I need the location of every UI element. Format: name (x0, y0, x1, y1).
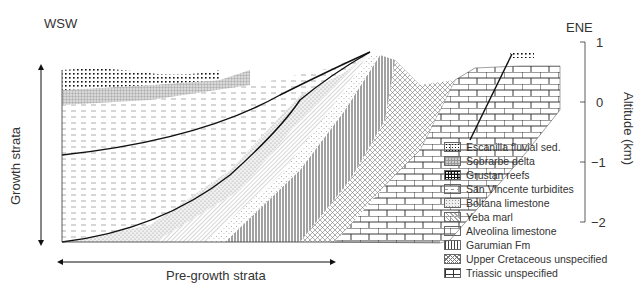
legend-item: Yeba marl (444, 211, 513, 223)
legend-item: Grustan reefs (444, 169, 530, 181)
vertical-lines-swatch-icon (444, 240, 461, 250)
axis-tick-0: 0 (596, 95, 603, 110)
diagonal-lines-swatch-icon (444, 212, 461, 222)
legend-label: Alveolina limestone (466, 225, 556, 237)
bold-grid-swatch-icon (444, 170, 461, 180)
legend-item: Garumian Fm (444, 239, 530, 251)
legend-label: Yeba marl (466, 211, 513, 223)
sparse-stipple-swatch-icon (444, 226, 461, 236)
legend-item: Triassic unspecified (444, 267, 558, 279)
legend: Escanilla fluvial sed. Sobrarbe delta Gr… (444, 141, 634, 281)
direction-wsw-label: WSW (44, 16, 77, 31)
legend-item: Sobrarbe delta (444, 155, 535, 167)
growth-strata-label: Growth strata (8, 127, 23, 205)
legend-item: Boltana limestone (444, 197, 549, 209)
crosshatch-swatch-icon (444, 254, 461, 264)
legend-label: Grustan reefs (466, 169, 530, 181)
legend-item: Upper Cretaceous unspecified (444, 253, 607, 265)
legend-label: Escanilla fluvial sed. (466, 141, 561, 153)
legend-item: Escanilla fluvial sed. (444, 141, 561, 153)
fine-grid-swatch-icon (444, 156, 461, 166)
legend-label: Triassic unspecified (466, 267, 558, 279)
legend-item: Alveolina limestone (444, 225, 556, 237)
legend-label: Garumian Fm (466, 239, 530, 251)
legend-label: Upper Cretaceous unspecified (466, 253, 607, 265)
legend-label: San Vincente turbidites (466, 183, 574, 195)
stipple-swatch-icon (444, 198, 461, 208)
legend-item: San Vincente turbidites (444, 183, 574, 195)
direction-ene-label: ENE (566, 20, 593, 35)
axis-tick-1: 1 (596, 35, 603, 50)
legend-label: Boltana limestone (466, 197, 549, 209)
bricks-swatch-icon (444, 268, 461, 278)
pre-growth-strata-label: Pre-growth strata (166, 268, 266, 283)
legend-label: Sobrarbe delta (466, 155, 535, 167)
dashes-swatch-icon (444, 184, 461, 194)
dots-swatch-icon (444, 142, 461, 152)
